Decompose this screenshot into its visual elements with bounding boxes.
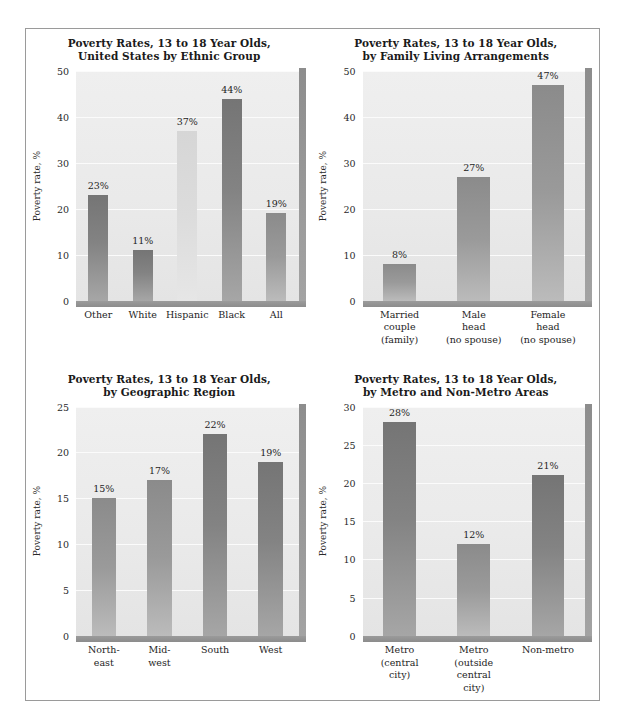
chart-title-line-2: by Family Living Arrangements bbox=[313, 50, 600, 63]
bar-slot: 28% bbox=[363, 407, 437, 637]
x-axis-label: North- east bbox=[76, 644, 132, 669]
y-axis: 0510152025 bbox=[42, 407, 72, 637]
bar-slot: 27% bbox=[437, 71, 511, 301]
chart-panel-family-living-arrangements: Poverty Rates, 13 to 18 Year Olds,by Fam… bbox=[313, 29, 600, 365]
plot-area: 28%12%21% bbox=[363, 407, 586, 637]
y-axis-tick: 0 bbox=[63, 631, 69, 642]
x-axis-label: West bbox=[243, 644, 299, 657]
x-axis-label: Black bbox=[210, 309, 255, 322]
y-axis-tick: 10 bbox=[57, 539, 69, 550]
x-axis-label: Male head (no spouse) bbox=[437, 309, 511, 347]
chart-title-line-2: by Metro and Non-Metro Areas bbox=[313, 386, 600, 399]
x-axis-label: South bbox=[187, 644, 243, 657]
x-axis-label: White bbox=[121, 309, 166, 322]
bar[interactable]: 15% bbox=[92, 498, 116, 636]
y-axis-tick: 40 bbox=[57, 111, 69, 122]
plot-wrapper: Poverty rate, %0102030405023%11%37%44%19… bbox=[26, 71, 313, 365]
x-axis-label: Other bbox=[76, 309, 121, 322]
y-axis-tick: 20 bbox=[57, 447, 69, 458]
plot-area: 8%27%47% bbox=[363, 71, 586, 301]
chart-title-line-2: United States by Ethnic Group bbox=[26, 50, 313, 63]
bar-slot: 8% bbox=[363, 71, 437, 301]
x-axis-label: Non-metro bbox=[511, 644, 585, 657]
x-axis-label: Female head (no spouse) bbox=[511, 309, 585, 347]
x-axis-labels: Married couple (family)Male head (no spo… bbox=[363, 303, 586, 365]
plot-wrapper: Poverty rate, %05101520253028%12%21%Metr… bbox=[313, 407, 600, 701]
y-axis: 051015202530 bbox=[329, 407, 359, 637]
chart-title: Poverty Rates, 13 to 18 Year Olds,by Fam… bbox=[313, 37, 600, 63]
bar[interactable]: 22% bbox=[203, 434, 227, 636]
y-axis-tick: 5 bbox=[349, 592, 355, 603]
y-axis-label-text: Poverty rate, % bbox=[319, 486, 329, 556]
bar[interactable]: 19% bbox=[258, 462, 282, 636]
bar-slot: 44% bbox=[210, 71, 255, 301]
bar-slot: 19% bbox=[254, 71, 299, 301]
y-axis: 01020304050 bbox=[329, 71, 359, 301]
bar[interactable]: 11% bbox=[133, 250, 153, 300]
y-axis-tick: 10 bbox=[343, 554, 355, 565]
y-axis-tick: 0 bbox=[349, 631, 355, 642]
y-axis-tick: 20 bbox=[343, 203, 355, 214]
bar-slot: 22% bbox=[187, 407, 243, 637]
x-axis-label: Metro (outside central city) bbox=[437, 644, 511, 694]
y-axis-tick: 30 bbox=[343, 157, 355, 168]
y-axis-tick: 5 bbox=[63, 585, 69, 596]
chart-title-line-1: Poverty Rates, 13 to 18 Year Olds, bbox=[26, 37, 313, 50]
chart-grid: Poverty Rates, 13 to 18 Year Olds,United… bbox=[26, 29, 599, 700]
y-axis-tick: 40 bbox=[343, 111, 355, 122]
bar-slot: 11% bbox=[121, 71, 166, 301]
plot-side-wall bbox=[585, 68, 592, 301]
bar[interactable]: 8% bbox=[383, 264, 416, 301]
y-axis-tick: 50 bbox=[343, 66, 355, 77]
y-axis-tick: 15 bbox=[57, 493, 69, 504]
y-axis-label-text: Poverty rate, % bbox=[32, 151, 42, 221]
y-axis-tick: 20 bbox=[343, 477, 355, 488]
bar-slot: 17% bbox=[132, 407, 188, 637]
chart-title-line-1: Poverty Rates, 13 to 18 Year Olds, bbox=[26, 373, 313, 386]
plot-side-wall bbox=[299, 68, 306, 301]
y-axis-tick: 10 bbox=[57, 249, 69, 260]
chart-panel-metro-non-metro: Poverty Rates, 13 to 18 Year Olds,by Met… bbox=[313, 365, 600, 701]
bar-slot: 12% bbox=[437, 407, 511, 637]
bar-value-label: 19% bbox=[218, 447, 322, 458]
x-axis-label: All bbox=[254, 309, 299, 322]
chart-panel-geographic-region: Poverty Rates, 13 to 18 Year Olds,by Geo… bbox=[26, 365, 313, 701]
chart-title-line-1: Poverty Rates, 13 to 18 Year Olds, bbox=[313, 373, 600, 386]
y-axis-label-text: Poverty rate, % bbox=[319, 151, 329, 221]
bar-value-label: 19% bbox=[226, 198, 326, 209]
y-axis-tick: 0 bbox=[349, 295, 355, 306]
figure-frame: Poverty Rates, 13 to 18 Year Olds,United… bbox=[25, 28, 600, 701]
bar[interactable]: 21% bbox=[532, 475, 565, 636]
bar-slot: 23% bbox=[76, 71, 121, 301]
bar[interactable]: 37% bbox=[177, 131, 197, 301]
chart-panel-ethnic-group: Poverty Rates, 13 to 18 Year Olds,United… bbox=[26, 29, 313, 365]
bar[interactable]: 19% bbox=[266, 213, 286, 300]
x-axis-label: Mid- west bbox=[132, 644, 188, 669]
bar[interactable]: 17% bbox=[147, 480, 171, 636]
x-axis-labels: OtherWhiteHispanicBlackAll bbox=[76, 303, 299, 365]
chart-title: Poverty Rates, 13 to 18 Year Olds,by Geo… bbox=[26, 373, 313, 399]
y-axis-tick: 50 bbox=[57, 66, 69, 77]
bar-slot: 15% bbox=[76, 407, 132, 637]
y-axis-tick: 0 bbox=[63, 295, 69, 306]
x-axis-label: Hispanic bbox=[165, 309, 210, 322]
chart-title-line-1: Poverty Rates, 13 to 18 Year Olds, bbox=[313, 37, 600, 50]
y-axis-tick: 25 bbox=[343, 439, 355, 450]
bar[interactable]: 47% bbox=[532, 85, 565, 301]
y-axis-label-text: Poverty rate, % bbox=[32, 486, 42, 556]
bar[interactable]: 27% bbox=[457, 177, 490, 301]
plot-area: 15%17%22%19% bbox=[76, 407, 299, 637]
bar[interactable]: 28% bbox=[383, 422, 416, 636]
bar-slot: 21% bbox=[511, 407, 585, 637]
bar[interactable]: 23% bbox=[88, 195, 108, 301]
plot-side-wall bbox=[585, 404, 592, 637]
bar-value-label: 47% bbox=[492, 70, 605, 81]
plot-side-wall bbox=[299, 404, 306, 637]
bar-slot: 47% bbox=[511, 71, 585, 301]
bar-slot: 37% bbox=[165, 71, 210, 301]
y-axis-tick: 20 bbox=[57, 203, 69, 214]
chart-title: Poverty Rates, 13 to 18 Year Olds,United… bbox=[26, 37, 313, 63]
bar-series: 8%27%47% bbox=[363, 71, 586, 301]
bar[interactable]: 12% bbox=[457, 544, 490, 636]
chart-title-line-2: by Geographic Region bbox=[26, 386, 313, 399]
